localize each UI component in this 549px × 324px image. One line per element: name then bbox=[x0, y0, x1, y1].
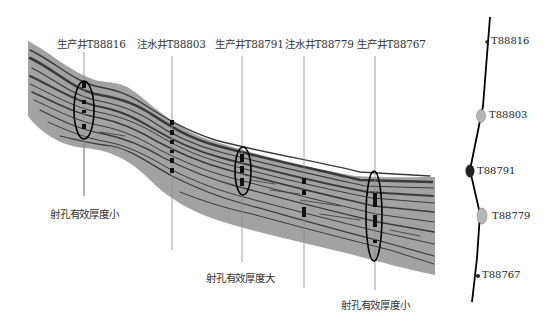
map-well-T88767-dot bbox=[476, 274, 480, 278]
annotation-small-thickness-right: 射孔有效厚度小 bbox=[341, 297, 410, 312]
map-well-row-line bbox=[470, 17, 490, 302]
map-label-T88767: T88767 bbox=[482, 269, 520, 280]
annotation-large-thickness: 射孔有效厚度大 bbox=[206, 270, 275, 285]
well-label-injector-T88779: 注水井T88779 bbox=[285, 36, 354, 51]
well-label-injector-T88803: 注水井T88803 bbox=[137, 36, 206, 51]
map-well-T88779-marker bbox=[477, 208, 487, 224]
map-label-T88791: T88791 bbox=[477, 165, 515, 176]
well-label-producer-T88816: 生产井T88816 bbox=[57, 36, 126, 51]
map-label-T88816: T88816 bbox=[491, 35, 529, 46]
well-label-producer-T88791: 生产井T88791 bbox=[215, 36, 284, 51]
map-label-T88779: T88779 bbox=[492, 210, 530, 221]
annotation-small-thickness-left: 射孔有效厚度小 bbox=[50, 206, 119, 221]
map-well-T88816-dot bbox=[485, 40, 489, 44]
map-well-T88803-marker bbox=[477, 110, 486, 123]
map-well-T88791-marker bbox=[466, 165, 475, 178]
map-label-T88803: T88803 bbox=[489, 109, 527, 120]
well-label-producer-T88767: 生产井T88767 bbox=[357, 36, 426, 51]
